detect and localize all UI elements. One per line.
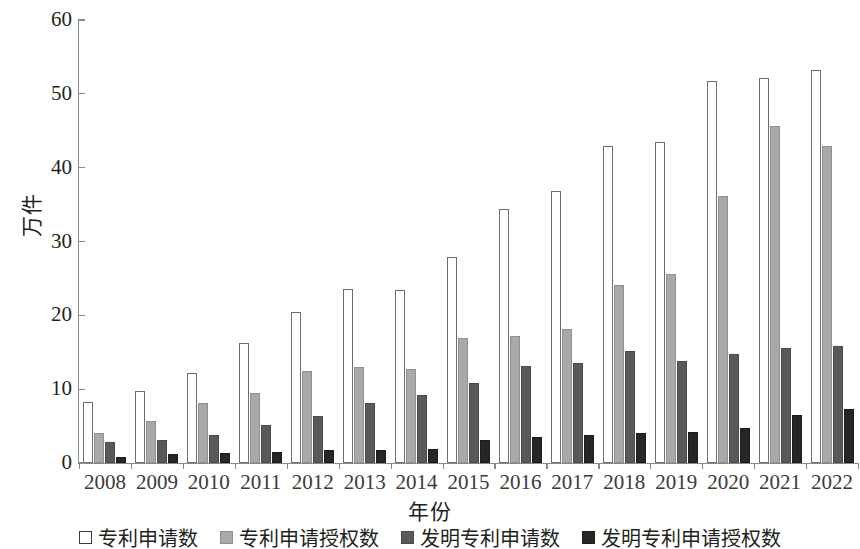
bar (625, 351, 635, 463)
legend-item[interactable]: 发明专利申请数 (401, 523, 560, 549)
y-axis-tick-label: 0 (36, 452, 72, 473)
bar-group (702, 20, 754, 463)
bar (105, 442, 115, 463)
bar (272, 452, 282, 463)
bar (655, 142, 665, 463)
bar-group (598, 20, 650, 463)
bar-group (754, 20, 806, 463)
y-axis-tick (78, 93, 85, 94)
legend-swatch-icon (582, 531, 595, 544)
bar (759, 78, 769, 463)
bar-group (79, 20, 131, 463)
bar (822, 146, 832, 463)
x-axis-tick (235, 463, 236, 469)
bar (469, 383, 479, 463)
x-axis-tick (183, 463, 184, 469)
bar (811, 70, 821, 463)
bar (521, 366, 531, 463)
x-axis-tick (754, 463, 755, 469)
patent-statistics-bar-chart: 万件 0102030405060 年份 专利申请数专利申请授权数发明专利申请数发… (0, 0, 860, 549)
legend-label: 专利申请授权数 (239, 523, 379, 549)
x-axis-tick (650, 463, 651, 469)
y-axis-tick-labels: 0102030405060 (28, 0, 72, 480)
bar (313, 416, 323, 463)
bar (376, 450, 386, 463)
bar-group (443, 20, 495, 463)
y-axis-tick (78, 315, 85, 316)
bar (428, 449, 438, 463)
bar (740, 428, 750, 463)
bar (510, 336, 520, 463)
bar-group (339, 20, 391, 463)
y-axis-tick (78, 19, 85, 20)
legend-label: 发明专利申请授权数 (601, 523, 781, 549)
bar (792, 415, 802, 463)
bar (343, 289, 353, 463)
bar (844, 409, 854, 463)
bar (584, 435, 594, 463)
bar (302, 371, 312, 463)
bar (365, 403, 375, 463)
bar (532, 437, 542, 463)
legend-item[interactable]: 专利申请授权数 (220, 523, 379, 549)
bar (157, 440, 167, 463)
bar (573, 363, 583, 463)
bar (250, 393, 260, 463)
bar (324, 450, 334, 463)
y-axis-tick (78, 241, 85, 242)
bar (146, 421, 156, 463)
legend-item[interactable]: 专利申请数 (79, 523, 198, 549)
bar (499, 209, 509, 463)
bar (614, 285, 624, 463)
bar (417, 395, 427, 463)
bar-group (131, 20, 183, 463)
x-axis-tick (598, 463, 599, 469)
chart-legend: 专利申请数专利申请授权数发明专利申请数发明专利申请授权数 (0, 523, 860, 549)
bar (729, 354, 739, 463)
y-axis-tick-label: 50 (36, 83, 72, 104)
y-axis-tick-label: 30 (36, 231, 72, 252)
bar (94, 433, 104, 463)
bar (395, 290, 405, 463)
bar (562, 329, 572, 463)
bar (220, 453, 230, 463)
x-axis-title: 年份 (0, 495, 860, 525)
bar (291, 312, 301, 463)
bar (83, 402, 93, 463)
x-axis-tick (339, 463, 340, 469)
bar (406, 369, 416, 464)
bar (135, 391, 145, 463)
bar (480, 440, 490, 463)
bar (707, 81, 717, 463)
bar-group (650, 20, 702, 463)
bar (116, 457, 126, 463)
legend-label: 发明专利申请数 (420, 523, 560, 549)
x-axis-tick (858, 463, 859, 469)
x-axis-line (78, 463, 858, 464)
legend-label: 专利申请数 (98, 523, 198, 549)
bar (209, 435, 219, 463)
bar (354, 367, 364, 463)
bar-group (235, 20, 287, 463)
y-axis-tick (78, 167, 85, 168)
bar (458, 338, 468, 463)
plot-area (79, 20, 858, 463)
x-axis-tick (546, 463, 547, 469)
bar (770, 126, 780, 463)
x-axis-tick (391, 463, 392, 469)
bar (551, 191, 561, 463)
bar (688, 432, 698, 463)
legend-item[interactable]: 发明专利申请授权数 (582, 523, 781, 549)
x-axis-tick-label: 2022 (797, 470, 860, 495)
x-axis-tick (702, 463, 703, 469)
legend-swatch-icon (401, 531, 414, 544)
x-axis-tick (79, 463, 80, 469)
x-axis-tick (287, 463, 288, 469)
bar-group (494, 20, 546, 463)
bar-group (391, 20, 443, 463)
bar (198, 403, 208, 463)
bar (636, 433, 646, 463)
y-axis-tick (78, 389, 85, 390)
bar-group (287, 20, 339, 463)
legend-swatch-icon (220, 531, 233, 544)
